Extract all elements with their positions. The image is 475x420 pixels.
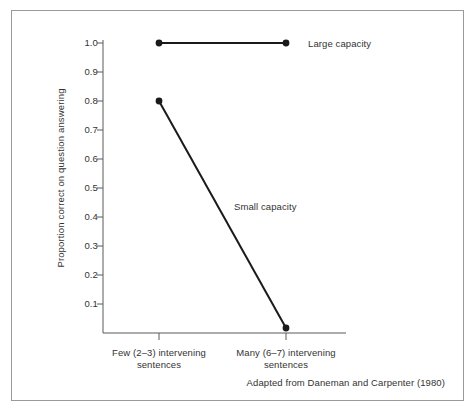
x-axis-ticks: [159, 333, 286, 340]
y-axis-tick-label: 0.4: [72, 212, 98, 222]
data-point-small-few: [156, 98, 163, 105]
y-axis-tick-labels: 1.0 0.9 0.8 0.7 0.6 0.5 0.4 0.3 0.2 0.1: [70, 11, 98, 402]
series-small-capacity: [156, 98, 290, 332]
y-axis-tick-label: 0.6: [72, 154, 98, 164]
x-axis-category-line: Many (6–7) intervening: [221, 347, 351, 359]
series-label-large-capacity: Large capacity: [308, 38, 371, 49]
data-point-small-many: [283, 325, 290, 332]
data-point-large-few: [156, 40, 163, 47]
x-axis-category-line: sentences: [94, 359, 224, 371]
x-axis-category-label-few: Few (2–3) intervening sentences: [94, 347, 224, 370]
figure-frame: 1.0 0.9 0.8 0.7 0.6 0.5 0.4 0.3 0.2 0.1 …: [11, 10, 464, 401]
series-large-capacity: [156, 40, 290, 47]
y-axis-title: Proportion correct on question answering: [50, 73, 64, 283]
y-axis-tick-label: 0.2: [72, 270, 98, 280]
y-axis-tick-label: 0.3: [72, 241, 98, 251]
series-label-small-capacity: Small capacity: [234, 201, 297, 212]
y-axis-tick-label: 1.0: [72, 38, 98, 48]
series-small-capacity-line: [159, 101, 286, 328]
y-axis-tick-label: 0.5: [72, 183, 98, 193]
x-axis-category-label-many: Many (6–7) intervening sentences: [221, 347, 351, 370]
x-axis-category-line: Few (2–3) intervening: [94, 347, 224, 359]
y-axis-tick-label: 0.7: [72, 125, 98, 135]
y-axis-tick-label: 0.9: [72, 67, 98, 77]
data-point-large-many: [283, 40, 290, 47]
plot-area: 1.0 0.9 0.8 0.7 0.6 0.5 0.4 0.3 0.2 0.1 …: [12, 11, 465, 402]
y-axis-tick-label: 0.8: [72, 96, 98, 106]
source-attribution: Adapted from Daneman and Carpenter (1980…: [247, 377, 445, 388]
y-axis-title-text: Proportion correct on question answering: [55, 88, 66, 267]
x-axis-category-line: sentences: [221, 359, 351, 371]
y-axis-tick-label: 0.1: [72, 299, 98, 309]
